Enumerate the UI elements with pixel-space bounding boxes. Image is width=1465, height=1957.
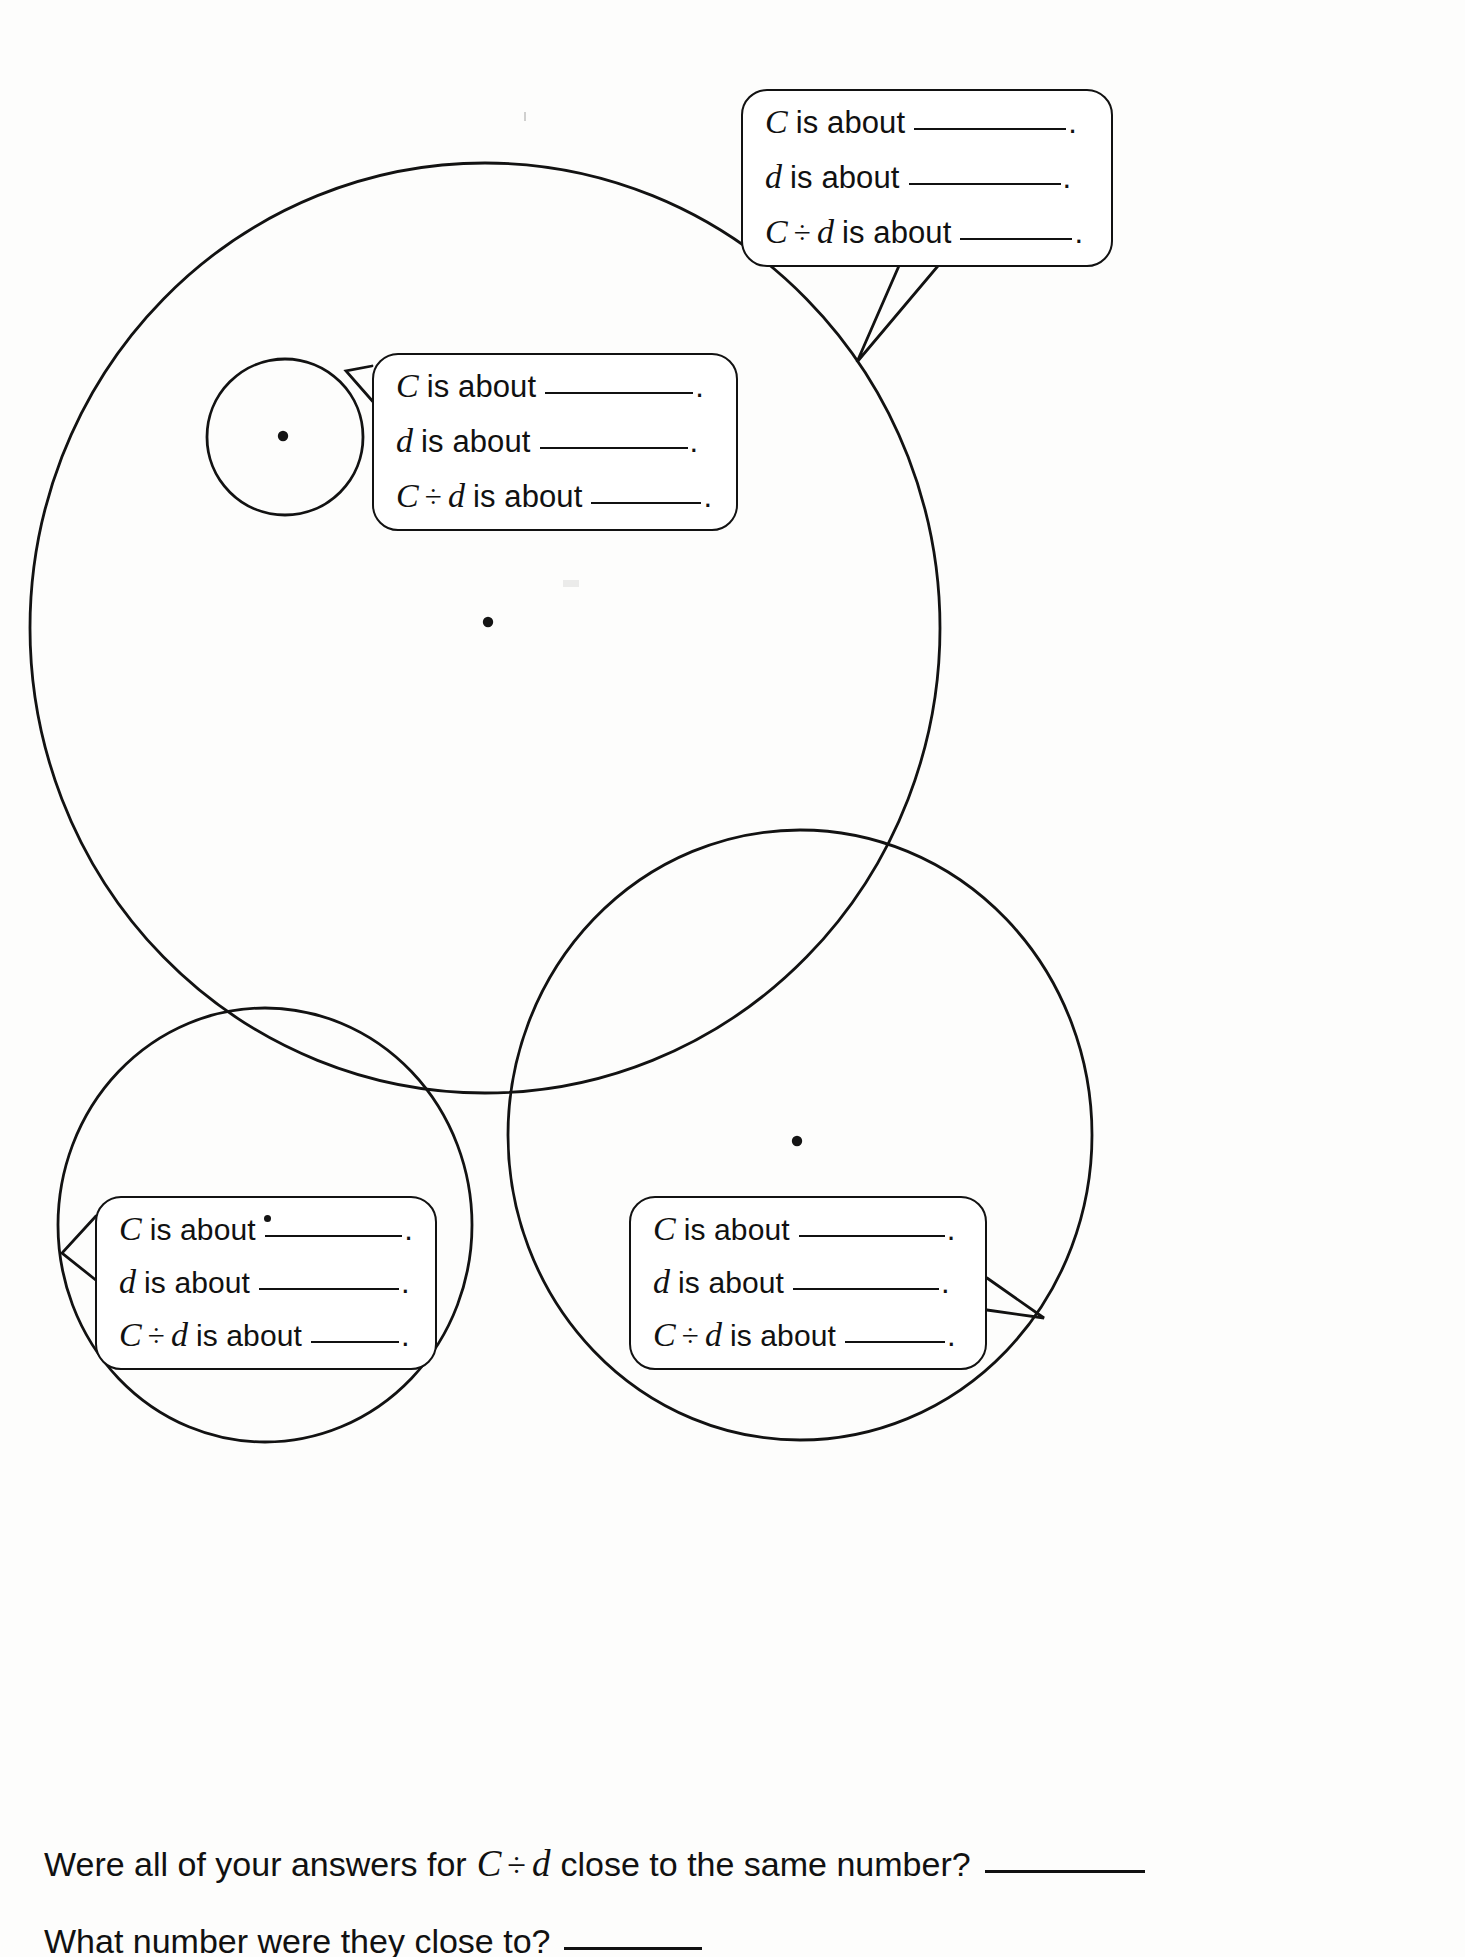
is-about-label: is about: [835, 217, 951, 248]
is-about-label: is about: [677, 1215, 790, 1245]
period: .: [1068, 107, 1077, 138]
questions-section: Were all of your answers for C ÷ d close…: [44, 1845, 1424, 1957]
question-2-text: What number were they close to?: [44, 1924, 550, 1957]
question-1-answer-blank[interactable]: [985, 1870, 1145, 1873]
callout-line-c: C is about .: [765, 105, 1089, 139]
variable-c: C: [119, 1318, 143, 1352]
callout-line-c-div-d: C ÷ d is about .: [653, 1318, 963, 1352]
large-circle-center-dot: [483, 617, 493, 627]
callout-line-d: d is about .: [653, 1265, 963, 1299]
is-about-label: is about: [189, 1321, 302, 1351]
is-about-label: is about: [783, 162, 899, 193]
question-1-text-after: close to the same number?: [561, 1847, 971, 1881]
is-about-label: is about: [143, 1215, 256, 1245]
divide-icon: ÷: [420, 481, 448, 512]
variable-c: C: [653, 1212, 677, 1246]
callout-tail-middle: [346, 366, 375, 404]
variable-d: d: [396, 424, 414, 458]
divide-icon: ÷: [677, 1320, 705, 1351]
is-about-label: is about: [671, 1268, 784, 1298]
callout-line-d: d is about .: [765, 160, 1089, 194]
stray-ink-dot: [264, 1215, 271, 1222]
variable-d: d: [532, 1845, 552, 1882]
is-about-label: is about: [414, 426, 530, 457]
variable-d: d: [765, 160, 783, 194]
question-1: Were all of your answers for C ÷ d close…: [44, 1845, 1424, 1882]
divide-icon: ÷: [789, 217, 817, 248]
variable-c: C: [396, 369, 420, 403]
callout-line-c: C is about .: [653, 1212, 963, 1246]
callout-bottom-left[interactable]: C is about . d is about . C ÷ d is about…: [95, 1196, 437, 1370]
bottom-right-circle-center-dot: [792, 1136, 802, 1146]
callout-line-d: d is about .: [119, 1265, 413, 1299]
callout-top-right[interactable]: C is about . d is about . C ÷ d is about…: [741, 89, 1113, 267]
period: .: [1074, 217, 1083, 248]
scan-speck: [524, 112, 526, 121]
answer-blank-c-div-d[interactable]: [311, 1341, 399, 1343]
answer-blank-d[interactable]: [259, 1288, 399, 1290]
callout-tail-bottom-right: [987, 1278, 1044, 1318]
answer-blank-c[interactable]: [265, 1235, 403, 1237]
answer-blank-d[interactable]: [909, 183, 1061, 185]
variable-d: d: [119, 1265, 137, 1299]
callout-line-c-div-d: C ÷ d is about .: [119, 1318, 413, 1352]
is-about-label: is about: [723, 1321, 836, 1351]
question-2-answer-blank[interactable]: [564, 1947, 702, 1950]
period: .: [941, 1267, 950, 1298]
large-circle: [30, 163, 940, 1093]
divide-icon: ÷: [502, 1848, 532, 1882]
period: .: [947, 1214, 956, 1245]
callout-line-c-div-d: C ÷ d is about .: [765, 215, 1089, 249]
variable-d: d: [653, 1265, 671, 1299]
answer-blank-c[interactable]: [545, 392, 693, 394]
period: .: [401, 1267, 410, 1298]
is-about-label: is about: [466, 481, 582, 512]
callout-middle[interactable]: C is about . d is about . C ÷ d is about…: [372, 353, 738, 531]
answer-blank-d[interactable]: [793, 1288, 939, 1290]
period: .: [703, 481, 712, 512]
answer-blank-c[interactable]: [799, 1235, 945, 1237]
period: .: [695, 371, 704, 402]
answer-blank-c-div-d[interactable]: [845, 1341, 945, 1343]
is-about-label: is about: [420, 371, 536, 402]
variable-c: C: [765, 215, 789, 249]
question-1-text-before: Were all of your answers for: [44, 1847, 467, 1881]
answer-blank-c-div-d[interactable]: [960, 238, 1072, 240]
variable-d: d: [448, 479, 466, 513]
answer-blank-c[interactable]: [914, 128, 1066, 130]
small-circle-center-dot: [278, 431, 288, 441]
variable-c: C: [119, 1212, 143, 1246]
variable-d: d: [817, 215, 835, 249]
circles-diagram: [0, 0, 1465, 1957]
is-about-label: is about: [137, 1268, 250, 1298]
callout-line-c-div-d: C ÷ d is about .: [396, 479, 714, 513]
is-about-label: is about: [789, 107, 905, 138]
question-2: What number were they close to?: [44, 1924, 1424, 1957]
scan-speck: [563, 580, 579, 587]
callout-line-d: d is about .: [396, 424, 714, 458]
answer-blank-d[interactable]: [540, 447, 688, 449]
period: .: [690, 426, 699, 457]
period: .: [401, 1320, 410, 1351]
answer-blank-c-div-d[interactable]: [591, 502, 701, 504]
variable-c: C: [653, 1318, 677, 1352]
worksheet-page: C is about . d is about . C ÷ d is about…: [0, 0, 1465, 1957]
callout-line-c: C is about .: [396, 369, 714, 403]
callout-tail-top-right: [857, 252, 948, 362]
variable-c: C: [396, 479, 420, 513]
callout-tail-bottom-left: [62, 1216, 97, 1281]
period: .: [947, 1320, 956, 1351]
callout-bottom-right[interactable]: C is about . d is about . C ÷ d is about…: [629, 1196, 987, 1370]
variable-c: C: [477, 1845, 503, 1882]
period: .: [404, 1214, 413, 1245]
variable-d: d: [705, 1318, 723, 1352]
divide-icon: ÷: [143, 1320, 171, 1351]
variable-c: C: [765, 105, 789, 139]
variable-d: d: [171, 1318, 189, 1352]
period: .: [1063, 162, 1072, 193]
